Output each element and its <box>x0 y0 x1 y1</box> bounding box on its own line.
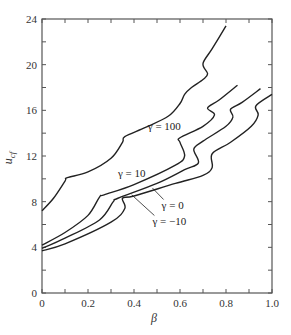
x-tick-label: 0.6 <box>173 297 187 309</box>
x-tick-label: 1.0 <box>265 297 279 309</box>
y-tick-label: 12 <box>26 150 37 162</box>
x-tick-label: 0.8 <box>219 297 233 309</box>
curve-label: γ = 100 <box>147 120 182 132</box>
x-tick-label: 0 <box>39 297 45 309</box>
y-tick-label: 4 <box>32 241 38 253</box>
x-axis-label: β <box>150 311 157 325</box>
y-axis-label: ucf <box>1 150 17 164</box>
y-tick-label: 20 <box>26 59 38 71</box>
y-tick-label: 24 <box>26 13 38 25</box>
curve-label: γ = 10 <box>117 167 146 179</box>
curve-series-2 <box>42 89 261 249</box>
chart: 00.20.40.60.81.004812162024 γ = 100γ = 1… <box>0 0 291 335</box>
plot-axes: 00.20.40.60.81.004812162024 <box>26 13 279 309</box>
curve-label: γ = 0 <box>161 199 185 211</box>
x-tick-label: 0.2 <box>81 297 95 309</box>
curve-series-3 <box>42 94 272 250</box>
plot-frame <box>42 19 272 293</box>
curve-series-1 <box>42 85 238 245</box>
y-tick-label: 16 <box>26 104 38 116</box>
x-tick-label: 0.4 <box>127 297 141 309</box>
y-tick-label: 0 <box>32 287 38 299</box>
curve-series-0 <box>42 26 226 211</box>
curve-label: γ = −10 <box>151 215 186 227</box>
y-tick-label: 8 <box>32 196 38 208</box>
